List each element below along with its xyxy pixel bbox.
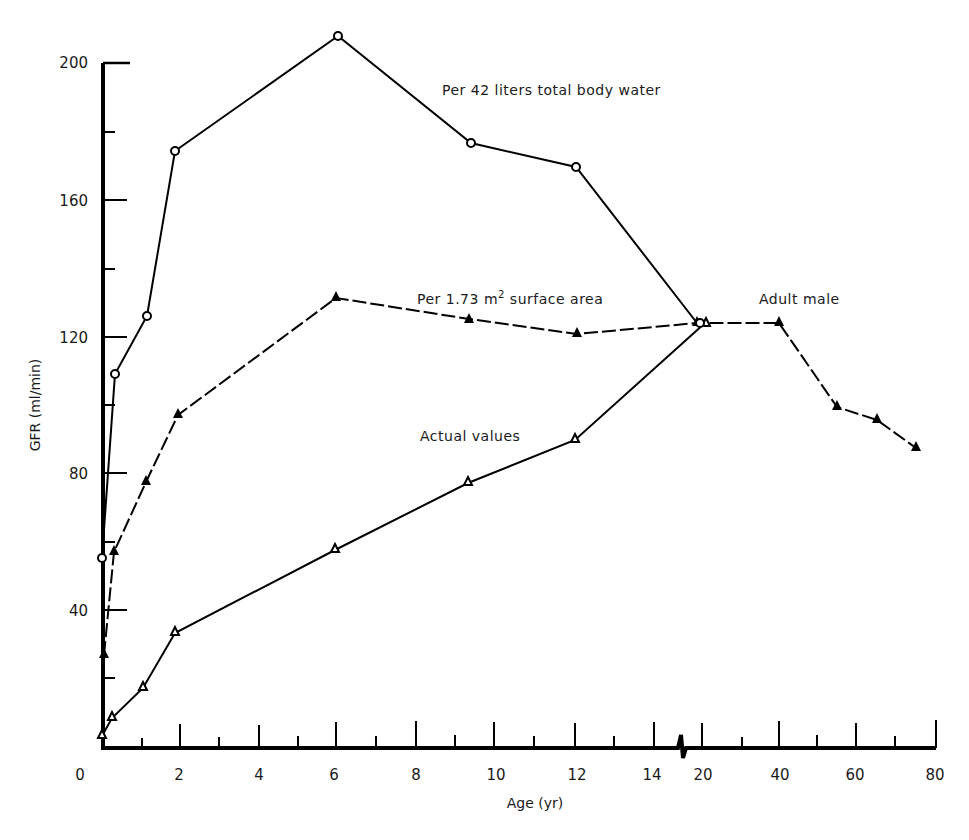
gfr-age-chart: 200 160 120 80 40 GFR (ml/min) 0 2	[0, 0, 969, 840]
label-surface-area-sup: 2	[498, 289, 505, 300]
open-circle-markers	[98, 32, 704, 562]
y-tick-label: 40	[69, 602, 88, 620]
x-tick-label: 10	[486, 766, 505, 784]
x-tick-label: 14	[642, 766, 661, 784]
x-tick-label: 2	[174, 766, 184, 784]
y-axis-title: GFR (ml/min)	[27, 359, 43, 452]
x-tick-label: 0	[75, 766, 85, 784]
x-tick-label: 8	[411, 766, 421, 784]
filled-triangle-markers	[99, 291, 921, 658]
open-triangle-markers	[98, 318, 710, 738]
x-tick-label: 80	[925, 766, 944, 784]
label-adult-male: Adult male	[759, 291, 840, 307]
label-body-water: Per 42 liters total body water	[442, 82, 661, 98]
label-surface-area-post: surface area	[505, 291, 603, 307]
series-body-water	[98, 32, 704, 562]
label-actual-values: Actual values	[420, 428, 520, 444]
x-tick-label: 40	[770, 766, 789, 784]
x-tick-label: 60	[845, 766, 864, 784]
y-tick-label: 120	[59, 329, 88, 347]
y-tick-label: 200	[59, 54, 88, 72]
series-actual-values	[98, 318, 710, 738]
label-surface-area-pre: Per 1.73 m	[417, 291, 498, 307]
x-tick-label: 4	[254, 766, 264, 784]
y-tick-label: 160	[59, 192, 88, 210]
y-tick-label: 80	[69, 465, 88, 483]
x-axis: 0 2 4 6 8 10 12 14 20 40 60 80 Age (yr)	[75, 720, 944, 811]
label-surface-area: Per 1.73 m2 surface area	[417, 289, 603, 307]
series-surface-area	[99, 291, 921, 658]
x-tick-label: 6	[329, 766, 339, 784]
x-axis-title: Age (yr)	[507, 795, 564, 811]
y-axis: 200 160 120 80 40 GFR (ml/min)	[27, 54, 130, 748]
x-tick-label: 12	[567, 766, 586, 784]
x-tick-label: 20	[693, 766, 712, 784]
